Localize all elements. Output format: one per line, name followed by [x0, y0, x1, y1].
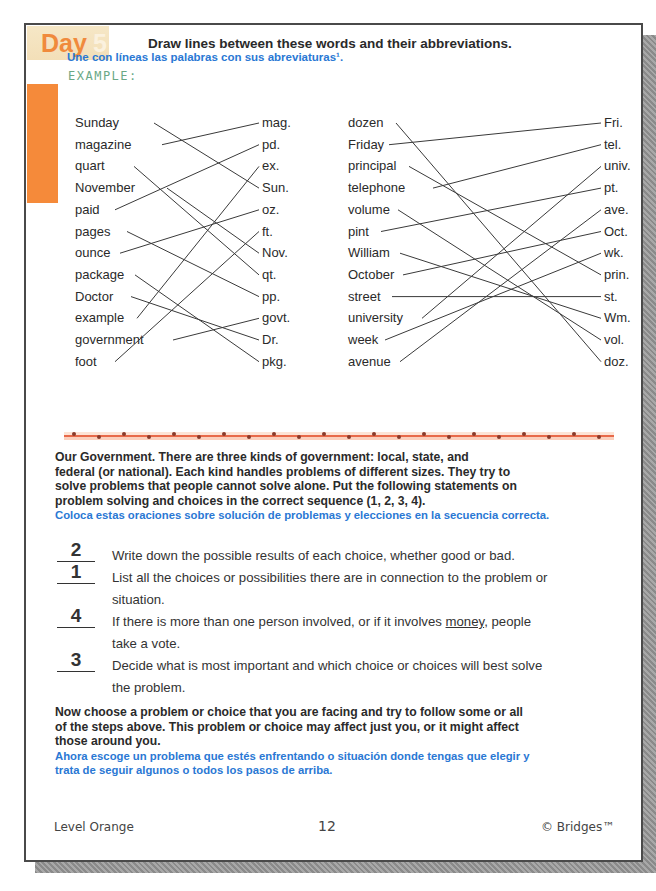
footer-level: Level Orange [54, 820, 134, 834]
divider-dot [172, 432, 176, 436]
match-line [389, 123, 601, 145]
divider-dot [147, 435, 151, 439]
match-line [173, 318, 259, 340]
intro-line: solve problems that people cannot solve … [55, 479, 625, 494]
footer-copyright: © Bridges™ [541, 820, 614, 834]
closing-spanish-line: Ahora escoge un problema que estés enfre… [55, 749, 625, 764]
footer-page-number: 12 [318, 818, 336, 834]
match-line [162, 123, 259, 145]
divider-dot [197, 435, 201, 439]
section-intro-spanish: Coloca estas oraciones sobre solución de… [55, 508, 625, 523]
divider-dot [372, 432, 376, 436]
worksheet-page: Day5 Draw lines between these words and … [24, 23, 643, 862]
match-line [433, 145, 601, 188]
divider-dot [72, 432, 76, 436]
divider-dot [397, 435, 401, 439]
step-line: If there is more than one person involve… [112, 611, 622, 633]
match-line [115, 232, 259, 362]
divider-dot [597, 435, 601, 439]
divider-dot [322, 432, 326, 436]
match-line [120, 210, 259, 253]
intro-line: federal (or national). Each kind handles… [55, 465, 625, 480]
match-line [400, 210, 601, 362]
divider-dot [572, 432, 576, 436]
match-line [127, 232, 259, 297]
divider-dot [247, 435, 251, 439]
step-line: Write down the possible results of each … [112, 545, 622, 567]
divider-dot [447, 435, 451, 439]
step-text: If there is more than one person involve… [112, 611, 622, 654]
divider-dot [272, 432, 276, 436]
divider-dot [97, 435, 101, 439]
answer-blank[interactable]: 2 [57, 539, 95, 562]
divider-dot [522, 432, 526, 436]
closing-spanish-line: trata de seguir algunos o todos los paso… [55, 763, 625, 778]
match-line [398, 210, 601, 340]
answer-blank[interactable]: 4 [57, 605, 95, 628]
step-text-part: , people [484, 614, 531, 629]
divider-dot [347, 435, 351, 439]
step-text: Decide what is most important and which … [112, 655, 622, 698]
step-line: List all the choices or possibilities th… [112, 567, 622, 589]
connector-lines [26, 25, 645, 425]
underlined-word: money [446, 614, 485, 629]
section-intro-english: Our Government. There are three kinds of… [55, 450, 625, 523]
closing-english: Now choose a problem or choice that you … [55, 705, 625, 778]
match-line [396, 123, 601, 362]
divider-dot [422, 432, 426, 436]
step-text: List all the choices or possibilities th… [112, 567, 622, 610]
divider-dot [222, 432, 226, 436]
closing-line: those around you. [55, 734, 625, 749]
step-line: Decide what is most important and which … [112, 655, 622, 677]
match-line [115, 145, 259, 210]
match-line [134, 166, 259, 275]
divider-dot [122, 432, 126, 436]
match-line [131, 297, 259, 340]
match-line [154, 123, 259, 188]
answer-blank[interactable]: 1 [57, 561, 95, 584]
answer-blank[interactable]: 3 [57, 649, 95, 672]
step-line: situation. [112, 589, 622, 611]
divider-dot [497, 435, 501, 439]
step-line: take a vote. [112, 633, 622, 655]
step-line: the problem. [112, 677, 622, 699]
intro-line: problem solving and choices in the corre… [55, 494, 625, 509]
closing-line: Now choose a problem or choice that you … [55, 705, 625, 720]
matching-exercise: SundaymagazinequartNovemberpaidpagesounc… [26, 25, 645, 425]
divider-dot [297, 435, 301, 439]
decorative-divider [64, 432, 614, 440]
intro-line: Our Government. There are three kinds of… [55, 450, 625, 465]
match-line [403, 232, 601, 275]
divider-dot [472, 432, 476, 436]
divider-dot [547, 435, 551, 439]
closing-line: of the steps above. This problem or choi… [55, 720, 625, 735]
step-text: Write down the possible results of each … [112, 545, 622, 567]
step-text-part: If there is more than one person involve… [112, 614, 446, 629]
